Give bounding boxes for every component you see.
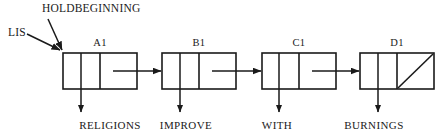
- head-pointer-arrows: [27, 19, 62, 50]
- node-d1-label: D1: [390, 37, 403, 48]
- holdbeginning-pointer-label: HOLDBEGINNING: [42, 2, 140, 14]
- node-a1-data-label: RELIGIONS: [79, 119, 141, 131]
- lis-pointer-label: LIS: [8, 26, 26, 38]
- linked-list-diagram: HOLDBEGINNING LIS A1 B1 C1 D1 RELIGIONS …: [0, 0, 444, 140]
- node-c1-data-label: WITH: [262, 119, 292, 131]
- node-b1-data-label: IMPROVE: [160, 119, 212, 131]
- node-d1-data-label: BURNINGS: [344, 119, 403, 131]
- node-a1-label: A1: [93, 37, 106, 48]
- node-c1-label: C1: [293, 37, 306, 48]
- node-b1-label: B1: [193, 37, 206, 48]
